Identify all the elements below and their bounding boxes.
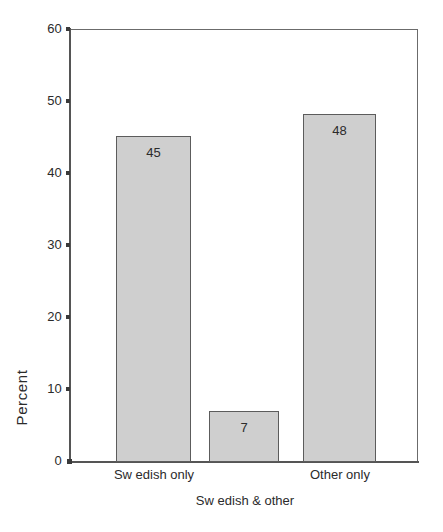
- x-tick-label-other-only: Other only: [285, 467, 395, 482]
- y-tick-mark-50: [66, 99, 70, 103]
- y-axis-title: Percent: [14, 353, 29, 443]
- bar-swedish-only: 45: [116, 136, 191, 462]
- origin-marker: [67, 459, 72, 464]
- y-tick-30: 30: [0, 238, 62, 251]
- y-tick-mark-40: [66, 171, 70, 175]
- y-tick-60: 60: [0, 22, 62, 35]
- bar-value-swedish-and-other: 7: [210, 421, 278, 434]
- y-tick-40: 40: [0, 166, 62, 179]
- y-tick-label-0: 0: [0, 454, 62, 467]
- y-tick-label-50: 50: [0, 94, 62, 107]
- y-tick-mark-10: [66, 387, 70, 391]
- bar-chart: 60 50 40 30 20 10 0 45 7 48 Sw edish onl…: [0, 0, 443, 532]
- y-tick-mark-30: [66, 243, 70, 247]
- bar-value-other-only: 48: [304, 124, 375, 137]
- x-tick-label-swedish-only: Sw edish only: [94, 467, 214, 482]
- y-tick-20: 20: [0, 310, 62, 323]
- bar-value-swedish-only: 45: [117, 146, 190, 159]
- y-tick-mark-20: [66, 315, 70, 319]
- y-tick-10: 10: [0, 382, 62, 395]
- y-tick-label-30: 30: [0, 238, 62, 251]
- y-tick-label-10: 10: [0, 382, 62, 395]
- y-tick-label-60: 60: [0, 22, 62, 35]
- x-tick-label-swedish-and-other: Sw edish & other: [185, 493, 305, 508]
- y-tick-label-40: 40: [0, 166, 62, 179]
- y-tick-0: 0: [0, 454, 62, 467]
- y-tick-label-20: 20: [0, 310, 62, 323]
- bar-swedish-and-other: 7: [209, 411, 279, 462]
- y-tick-50: 50: [0, 94, 62, 107]
- y-tick-mark-60: [66, 27, 70, 31]
- bar-other-only: 48: [303, 114, 376, 462]
